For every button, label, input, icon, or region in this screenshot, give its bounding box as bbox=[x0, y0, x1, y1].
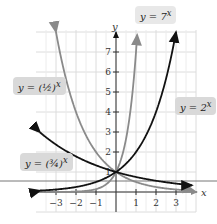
x-tick-label: 3 bbox=[173, 198, 179, 208]
y-axis-label: y bbox=[111, 21, 118, 32]
label-2x: y = 2x bbox=[175, 97, 216, 115]
x-tick-label: −1 bbox=[89, 198, 102, 208]
y-tick-label: 3 bbox=[105, 127, 111, 137]
y-tick-label: 6 bbox=[105, 67, 111, 77]
curve-half-x bbox=[56, 32, 194, 191]
label-half-x: y = (½)x bbox=[13, 77, 66, 95]
x-axis-label: x bbox=[201, 187, 207, 198]
x-tick-label: 2 bbox=[153, 198, 159, 208]
label-7x: y = 7x bbox=[135, 6, 176, 24]
exponential-graph: xy−3−2−11231234567 y = 7x y = (½)x y = 2… bbox=[0, 0, 217, 224]
label-threequarter-x: y = (¾)x bbox=[20, 153, 73, 171]
x-tick-label: 1 bbox=[133, 198, 139, 208]
y-tick-label: 4 bbox=[105, 107, 111, 117]
y-tick-label: 2 bbox=[105, 147, 111, 157]
y-tick-label: 7 bbox=[105, 47, 111, 57]
x-tick-label: −2 bbox=[69, 198, 82, 208]
x-tick-label: −3 bbox=[49, 198, 63, 208]
y-tick-label: 5 bbox=[105, 87, 111, 97]
